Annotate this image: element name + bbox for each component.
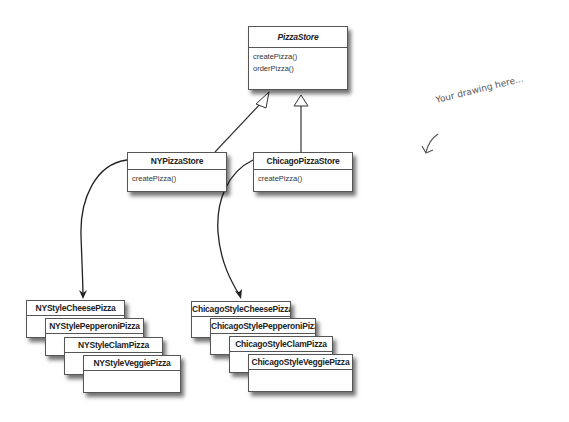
creates-arrow-ny bbox=[81, 160, 127, 296]
class-name: NYPizzaStore bbox=[128, 153, 226, 170]
method-createpizza: createPizza() bbox=[132, 173, 222, 185]
class-chicagopizzastore: ChicagoPizzaStore createPizza() bbox=[253, 152, 353, 192]
class-name: ChicagoStylePepperoniPizza bbox=[211, 319, 315, 334]
class-name: ChicagoStyleClamPizza bbox=[230, 337, 332, 352]
method-orderpizza: orderPizza() bbox=[253, 63, 343, 75]
class-name: NYStylePepperoniPizza bbox=[46, 319, 143, 334]
class-name: NYStyleClamPizza bbox=[65, 338, 162, 353]
hand-drawn-arrow-icon bbox=[420, 130, 460, 160]
class-name: ChicagoStyleCheesePizza bbox=[192, 302, 290, 317]
method-createpizza: createPizza() bbox=[253, 51, 343, 63]
class-diagram: PizzaStore createPizza() orderPizza() NY… bbox=[0, 0, 569, 422]
class-pizzastore: PizzaStore createPizza() orderPizza() bbox=[248, 26, 348, 90]
method-createpizza: createPizza() bbox=[258, 173, 348, 185]
class-name: NYStyleVeggiePizza bbox=[84, 356, 180, 371]
class-name: ChicagoPizzaStore bbox=[254, 153, 352, 170]
class-name: PizzaStore bbox=[249, 27, 347, 48]
class-name: ChicagoStyleVeggiePizza bbox=[249, 355, 352, 370]
inheritance-arrow-ny bbox=[215, 102, 262, 152]
class-chicagostyleveggiepizza: ChicagoStyleVeggiePizza bbox=[248, 354, 353, 392]
inheritance-arrowhead-chicago bbox=[294, 95, 308, 106]
class-name: NYStyleCheesePizza bbox=[27, 301, 124, 316]
class-nystyleveggiepizza: NYStyleVeggiePizza bbox=[83, 355, 181, 393]
class-nypizzastore: NYPizzaStore createPizza() bbox=[127, 152, 227, 192]
